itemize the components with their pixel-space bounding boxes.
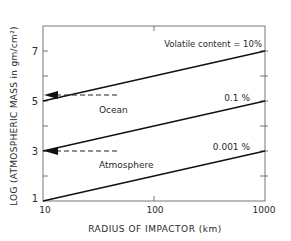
atmosphere-arrowhead-icon [44,147,58,155]
y-tick-label-5: 5 [32,96,38,107]
x-tick-label-10: 10 [39,205,51,215]
ocean-arrowhead-icon [44,91,58,99]
y-axis-title: LOG (ATMOSPHERIC MASS in gm/cm²) [9,26,19,206]
ocean-label: Ocean [99,105,128,115]
series-label-0.001pct: 0.001 % [213,142,251,152]
x-axis-title: RADIUS OF IMPACTOR (km) [88,224,222,234]
series-label-0.1pct: 0.1 % [224,93,250,103]
atmosphere-label: Atmosphere [99,160,154,170]
plot-frame [43,26,265,201]
x-tick-label-100: 100 [146,205,163,215]
y-ticks-right [260,51,268,176]
y-tick-label-1: 1 [32,193,38,204]
y-ticks-left [43,51,48,176]
series-label-10pct: Volatile content = 10% [164,39,262,49]
y-tick-label-7: 7 [32,46,38,57]
x-tick-label-1000: 1000 [253,205,276,215]
chart: 7 5 3 1 10 100 1000 RADIUS OF IMPACTOR (… [0,0,291,241]
series-line-0.001pct [43,151,265,201]
y-tick-label-3: 3 [32,146,38,157]
